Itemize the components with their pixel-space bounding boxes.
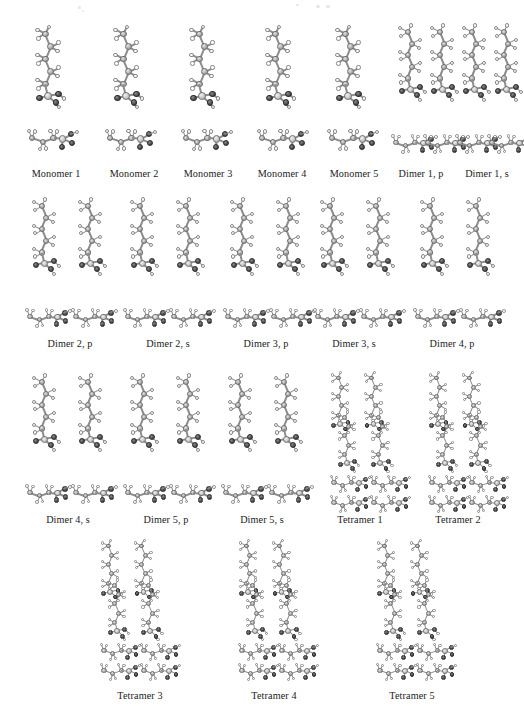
structure-panel [218, 372, 314, 512]
hydrogen-atom [185, 500, 189, 504]
molecule-model [388, 22, 450, 162]
hydrogen-atom [480, 135, 484, 139]
hydrogen-atom [348, 129, 352, 133]
hydrogen-atom [141, 197, 145, 201]
hydrogen-atom [369, 324, 373, 328]
hydrogen-atom [450, 428, 453, 431]
oxygen-atom [482, 466, 487, 471]
hydrogen-atom [57, 264, 61, 268]
structure-caption: Monomer 2 [96, 168, 172, 179]
carbon-atom [107, 135, 113, 141]
hydrogen-atom [321, 231, 325, 235]
hydrogen-atom [454, 644, 457, 647]
carbon-atom [120, 31, 127, 38]
carbon-atom [346, 443, 351, 448]
carbon-atom [419, 553, 424, 558]
silicon-atom [442, 460, 448, 466]
silicon-atom [213, 135, 220, 142]
hydrogen-atom [408, 476, 411, 479]
hydrogen-atom [419, 309, 423, 313]
molecule-model [120, 372, 216, 512]
hydrogen-atom [25, 484, 29, 488]
hydrogen-atom [231, 208, 235, 212]
hydrogen-atom [375, 476, 378, 479]
hydrogen-atom [421, 644, 424, 647]
carbon-atom [489, 140, 495, 146]
carbon-atom [47, 68, 54, 75]
hydrogen-atom [122, 644, 125, 647]
carbon-atom [125, 314, 131, 320]
hydrogen-atom [514, 61, 518, 65]
carbon-atom [137, 226, 143, 232]
structure-caption: Dimer 1, s [450, 168, 524, 179]
hydrogen-atom [455, 464, 458, 467]
hydrogen-atom [365, 417, 368, 420]
hydrogen-atom [392, 551, 395, 554]
hydrogen-atom [96, 485, 100, 489]
hydrogen-atom [294, 448, 298, 452]
hydrogen-atom [294, 411, 298, 415]
carbon-atom [327, 203, 333, 209]
hydrogen-atom [156, 596, 159, 599]
hydrogen-atom [156, 609, 159, 612]
hydrogen-atom [281, 539, 284, 542]
structure-panel [452, 22, 514, 162]
structure-caption: Dimer 2, s [120, 338, 216, 349]
oxygen-atom [411, 591, 416, 596]
hydrogen-atom [195, 220, 199, 224]
hydrogen-atom [212, 485, 216, 489]
hydrogen-atom [254, 557, 257, 560]
oxygen-atom [384, 630, 389, 635]
hydrogen-atom [277, 231, 281, 235]
hydrogen-atom [445, 264, 449, 268]
hydrogen-atom [97, 243, 101, 247]
hydrogen-atom [109, 539, 112, 542]
hydrogen-atom [316, 644, 319, 647]
hydrogen-atom [355, 49, 359, 53]
hydrogen-atom [403, 632, 406, 635]
hydrogen-atom [273, 485, 277, 489]
silicon-atom [252, 628, 258, 634]
carbon-atom [461, 314, 467, 320]
hydrogen-atom [295, 663, 298, 666]
hydrogen-atom [335, 476, 338, 479]
oxygen-atom [365, 423, 370, 428]
carbon-atom [150, 592, 155, 597]
carbon-atom [254, 611, 259, 616]
structure-caption: Dimer 2, p [22, 338, 118, 349]
hydrogen-atom [50, 309, 54, 313]
hydrogen-atom [196, 388, 200, 392]
hydrogen-atom [437, 510, 440, 513]
hydrogen-atom [484, 447, 487, 450]
hydrogen-atom [113, 28, 117, 32]
hydrogen-atom [352, 476, 355, 479]
carbon-atom [467, 376, 472, 381]
hydrogen-atom [287, 484, 291, 488]
hydrogen-atom [432, 590, 435, 593]
hydrogen-atom [462, 411, 465, 414]
molecule-model [18, 22, 94, 162]
oxygen-atom [131, 99, 137, 105]
silicon-atom [298, 314, 305, 321]
carbon-atom [336, 394, 341, 399]
hydrogen-atom [461, 135, 465, 139]
oxygen-atom [289, 144, 295, 150]
hydrogen-atom [33, 208, 37, 212]
hydrogen-atom [321, 254, 325, 258]
oxygen-atom [364, 484, 369, 489]
hydrogen-atom [51, 243, 55, 247]
hydrogen-atom [209, 129, 213, 133]
silicon-atom [494, 500, 500, 506]
hydrogen-atom [98, 235, 102, 239]
hydrogen-atom [367, 254, 371, 258]
molecule-model [410, 196, 506, 336]
hydrogen-atom [482, 489, 485, 492]
hydrogen-atom [105, 644, 108, 647]
carbon-atom [336, 376, 341, 381]
structure-panel [248, 22, 324, 162]
carbon-atom [426, 592, 431, 597]
carbon-atom [277, 562, 282, 567]
silicon-atom [475, 260, 482, 267]
hydrogen-atom [249, 243, 253, 247]
oxygen-atom [229, 438, 235, 444]
